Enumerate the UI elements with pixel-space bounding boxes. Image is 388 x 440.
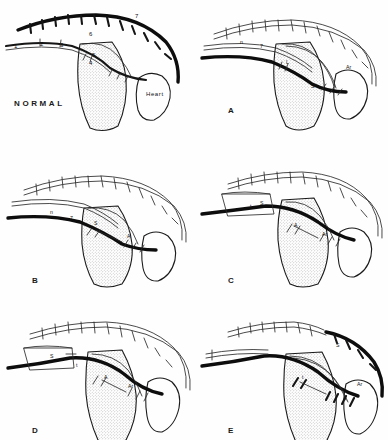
figure-sheet: Heart 1 2 bbox=[0, 0, 388, 440]
svg-text:Ar: Ar bbox=[322, 231, 327, 237]
svg-text:L: L bbox=[286, 59, 289, 65]
svg-text:n: n bbox=[232, 358, 235, 364]
svg-text:S: S bbox=[94, 220, 98, 226]
vessel-lower bbox=[6, 43, 146, 80]
panel-d: S t A Ar D bbox=[0, 300, 194, 440]
panel-caption-c: C bbox=[228, 276, 234, 285]
panel-a: n 7 L Ar S A bbox=[194, 0, 388, 146]
svg-text:S: S bbox=[311, 83, 315, 89]
panel-normal-drawing: Heart 1 2 bbox=[0, 0, 194, 146]
panel-c-drawing: t S A Ar bbox=[194, 148, 388, 294]
panel-e: S n t Ar E bbox=[194, 300, 388, 440]
panel-e-drawing: S n t Ar bbox=[194, 300, 388, 440]
panel-b: n 7 S A B bbox=[0, 148, 194, 294]
svg-text:S: S bbox=[260, 200, 264, 206]
svg-text:7: 7 bbox=[70, 215, 73, 221]
heart-outline bbox=[146, 378, 180, 432]
rib-ticks-left bbox=[238, 322, 312, 337]
heart-outline bbox=[142, 232, 176, 281]
svg-text:n: n bbox=[240, 39, 243, 45]
rib-ticks-right bbox=[334, 334, 376, 370]
svg-text:7: 7 bbox=[260, 43, 263, 49]
svg-text:S: S bbox=[50, 353, 54, 359]
svg-text:A: A bbox=[294, 222, 298, 228]
svg-text:Ar: Ar bbox=[357, 381, 362, 387]
ribbed-arch-left bbox=[228, 322, 324, 332]
svg-text:S: S bbox=[336, 342, 340, 348]
panel-d-drawing: S t A Ar bbox=[0, 300, 194, 440]
panel-a-drawing: n 7 L Ar S bbox=[194, 0, 388, 146]
panel-caption-e: E bbox=[228, 426, 233, 435]
svg-text:n: n bbox=[50, 209, 53, 215]
panel-c: t S A Ar C bbox=[194, 148, 388, 294]
panel-b-drawing: n 7 S A bbox=[0, 148, 194, 294]
svg-text:Ar: Ar bbox=[128, 383, 133, 389]
svg-text:t: t bbox=[76, 362, 78, 368]
panel-normal: Heart 1 2 bbox=[0, 0, 194, 146]
svg-text:Ar: Ar bbox=[346, 64, 351, 70]
svg-text:7: 7 bbox=[135, 13, 139, 19]
svg-text:6: 6 bbox=[89, 31, 93, 37]
panel-caption-d: D bbox=[32, 426, 38, 435]
panel-caption-a: A bbox=[228, 106, 234, 115]
svg-text:A: A bbox=[104, 374, 108, 380]
heart-outline bbox=[344, 380, 378, 434]
heart-label: Heart bbox=[146, 91, 164, 97]
panel-caption-b: B bbox=[32, 276, 38, 285]
panel-caption-normal: NORMAL bbox=[14, 99, 65, 108]
svg-text:A: A bbox=[127, 233, 131, 239]
